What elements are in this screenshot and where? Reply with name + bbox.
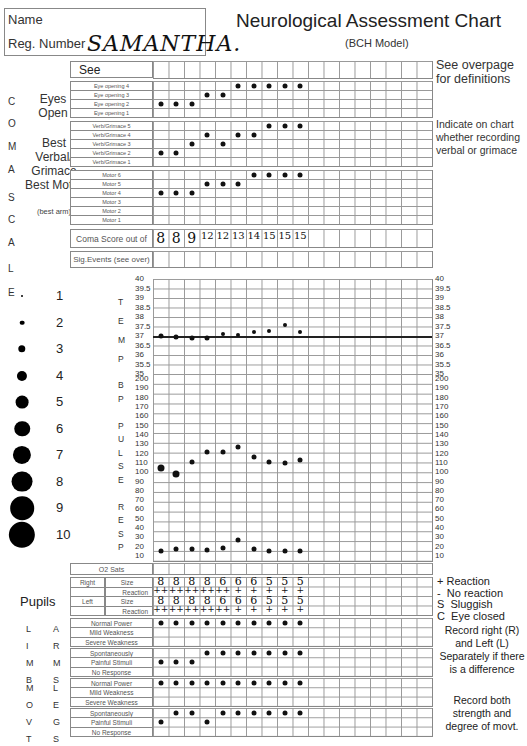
pupil-size-number: 8 xyxy=(56,474,63,489)
arm-power-row-mark xyxy=(158,620,163,625)
pupil-size-dot xyxy=(12,471,33,492)
coma-score-value[interactable]: 15 xyxy=(294,230,307,241)
pupil-value[interactable]: ++ xyxy=(169,585,184,595)
motor-score-mark xyxy=(158,190,163,195)
pupil-value[interactable]: ++ xyxy=(169,604,184,614)
pupil-value[interactable]: ++ xyxy=(200,585,215,595)
temperature-mark xyxy=(205,335,210,340)
bp-axis-tick-left: 10 xyxy=(135,551,144,560)
bp-pulse-resp-grid[interactable] xyxy=(153,374,433,562)
bp-axis-tick-right: 20 xyxy=(435,542,444,551)
verbal-score-mark xyxy=(189,141,194,146)
pupil-value[interactable]: + xyxy=(296,585,304,595)
pupil-value[interactable]: ++ xyxy=(153,604,168,614)
motor-score-mark xyxy=(205,181,210,186)
leg-power-row-grid[interactable] xyxy=(153,678,433,707)
pulse-mark xyxy=(189,459,194,464)
pupil-value[interactable]: ++ xyxy=(215,585,230,595)
leg-movement-row-grid[interactable] xyxy=(153,708,433,737)
bp-axis-tick-right: 40 xyxy=(435,523,444,532)
patient-name-handwritten[interactable]: SAMANTHA. xyxy=(87,31,241,56)
coma-letter: M xyxy=(8,140,16,154)
pupil-value[interactable]: ++ xyxy=(184,604,199,614)
eyes-open-grid[interactable] xyxy=(153,81,433,118)
pupil-size-number: 3 xyxy=(56,341,63,356)
bp-pulse-resp-letter: E xyxy=(118,516,124,525)
motor-grid[interactable] xyxy=(153,170,433,225)
arm-power-row-mark xyxy=(282,620,287,625)
pupil-value[interactable]: ++ xyxy=(153,585,168,595)
temp-letter: P xyxy=(118,355,124,364)
temperature-grid[interactable] xyxy=(153,279,433,375)
motor-score-mark xyxy=(220,181,225,186)
verbal-score-mark xyxy=(298,123,303,128)
leg-power-row-mark xyxy=(236,680,241,685)
temp-axis-tick-right: 39 xyxy=(435,293,444,302)
verbal-grid[interactable] xyxy=(153,121,433,167)
see-overpage-grid[interactable] xyxy=(153,61,433,79)
bp-axis-tick-left: 160 xyxy=(135,411,148,420)
coma-score-value[interactable]: 13 xyxy=(232,230,245,241)
temperature-mark xyxy=(298,330,302,334)
chart-subtitle: (BCH Model) xyxy=(345,37,409,49)
arm-power-row-mark xyxy=(220,620,225,625)
resp-mark xyxy=(158,549,163,554)
pulse-mark xyxy=(251,454,256,459)
arm-power-row-grid[interactable] xyxy=(153,618,433,647)
resp-mark xyxy=(251,547,256,552)
pupil-value[interactable]: + xyxy=(281,585,289,595)
temp-axis-tick-right: 38.5 xyxy=(435,303,451,312)
arm-movement-row-grid[interactable] xyxy=(153,648,433,677)
pupil-value[interactable]: ++ xyxy=(184,585,199,595)
temperature-mark xyxy=(267,329,271,333)
coma-score-value[interactable]: 14 xyxy=(247,230,260,241)
o2-sats-label: O2 Sats xyxy=(70,563,153,575)
eye-score-mark xyxy=(267,83,272,88)
pupil-value[interactable]: + xyxy=(234,585,242,595)
pulse-mark xyxy=(157,464,164,471)
coma-letter: C xyxy=(8,213,15,227)
verbal-grimace-note: Indicate on chart whether recording verb… xyxy=(436,118,527,157)
coma-score-value[interactable]: 8 xyxy=(156,230,165,246)
coma-score-value[interactable]: 15 xyxy=(278,230,291,241)
bp-axis-tick-left: 20 xyxy=(135,542,144,551)
pupil-key-item: S Sluggish xyxy=(437,599,505,611)
leg-power-row: Severe Weakness xyxy=(70,697,153,707)
pupil-value[interactable]: + xyxy=(296,604,304,614)
bp-axis-tick-right: 130 xyxy=(435,439,448,448)
coma-score-value[interactable]: 12 xyxy=(201,230,214,241)
bp-pulse-resp-letter: U xyxy=(118,435,124,444)
limb-letter: L xyxy=(26,622,31,636)
o2-sats-grid[interactable] xyxy=(153,563,433,575)
bp-axis-tick-left: 90 xyxy=(135,477,144,486)
bp-axis-tick-right: 60 xyxy=(435,504,444,513)
coma-score-value[interactable]: 9 xyxy=(187,230,196,246)
temp-axis-tick-left: 39 xyxy=(135,293,144,302)
normal-temp-line xyxy=(153,336,432,338)
pupil-value[interactable]: + xyxy=(265,604,273,614)
pupil-value[interactable]: + xyxy=(250,585,258,595)
pupil-value[interactable]: + xyxy=(250,604,258,614)
coma-score-value[interactable]: 8 xyxy=(172,230,181,246)
bp-axis-tick-right: 10 xyxy=(435,551,444,560)
pupil-value[interactable]: + xyxy=(234,604,242,614)
pupil-value[interactable]: ++ xyxy=(200,604,215,614)
coma-letter: E xyxy=(8,286,15,300)
coma-score-value[interactable]: 15 xyxy=(263,230,276,241)
coma-score-value[interactable]: 12 xyxy=(216,230,229,241)
coma-letter: S xyxy=(8,191,15,205)
sig-events-grid[interactable] xyxy=(153,251,433,268)
pupil-value[interactable]: ++ xyxy=(215,604,230,614)
bp-axis-tick-right: 110 xyxy=(435,458,448,467)
pupil-value[interactable]: + xyxy=(265,585,273,595)
see-overpage-label: See overpage xyxy=(70,61,153,78)
resp-mark xyxy=(267,549,272,554)
pupil-key-item: + Reaction xyxy=(437,576,505,588)
temperature-mark xyxy=(174,334,179,339)
temp-axis-tick-right: 37 xyxy=(435,331,444,340)
bp-axis-tick-right: 120 xyxy=(435,449,448,458)
bp-axis-tick-left: 40 xyxy=(135,523,144,532)
pupil-size-number: 10 xyxy=(56,527,70,542)
pupil-value[interactable]: + xyxy=(281,604,289,614)
arm-movement-row-mark xyxy=(236,650,241,655)
